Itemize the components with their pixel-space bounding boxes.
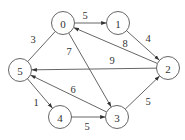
node-label: 1: [115, 18, 121, 30]
node-3: 3: [106, 106, 129, 129]
edge-weight-label: 7: [66, 46, 71, 57]
node-1: 1: [107, 12, 130, 35]
node-2: 2: [157, 57, 180, 80]
node-0: 0: [52, 12, 75, 35]
node-label: 5: [17, 65, 23, 77]
node-label: 0: [60, 18, 66, 30]
node-4: 4: [49, 106, 72, 129]
edge-labels-layer: 5489736155: [30, 10, 151, 132]
edge-0-to-3: [69, 33, 112, 107]
graph-diagram: 5489736155 012345: [0, 0, 185, 140]
edge-weight-label: 3: [30, 34, 35, 45]
arrow-line: [69, 33, 112, 107]
edge-weight-label: 8: [122, 38, 127, 49]
arrow-line: [127, 31, 160, 61]
arrow-line: [27, 79, 52, 108]
edge-3-to-5: [30, 75, 106, 112]
edge-weight-label: 5: [82, 10, 87, 21]
edges-layer: [27, 23, 159, 117]
arrow-line: [125, 76, 159, 109]
edge-1-to-2: [127, 31, 160, 61]
edge-weight-label: 9: [109, 55, 114, 66]
edge-weight-label: 6: [70, 84, 75, 95]
edge-weight-label: 1: [33, 97, 38, 108]
edge-3-to-2: [125, 76, 159, 109]
node-label: 2: [165, 63, 171, 75]
node-label: 4: [57, 112, 63, 124]
node-label: 3: [114, 112, 120, 124]
edge-weight-label: 5: [84, 121, 89, 132]
edge-weight-label: 5: [145, 96, 150, 107]
edge-5-to-4: [27, 79, 52, 108]
arrow-line: [30, 75, 106, 112]
node-5: 5: [9, 59, 32, 82]
edge-weight-label: 4: [145, 33, 151, 44]
arrow-line: [31, 68, 156, 70]
edge-2-to-5: [31, 68, 156, 70]
